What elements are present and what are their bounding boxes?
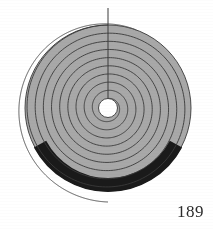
spiral-figure: 189 (0, 0, 213, 229)
spiral-illustration (0, 0, 213, 229)
page-number: 189 (177, 203, 204, 220)
